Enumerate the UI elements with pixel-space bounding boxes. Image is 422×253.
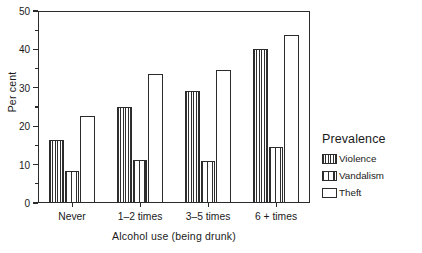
bar-vandalism-0 — [65, 171, 80, 203]
x-tick — [72, 203, 73, 207]
bar-theft-2 — [216, 70, 231, 203]
legend-swatch-theft — [322, 188, 337, 198]
x-category-label: 1–2 times — [118, 211, 163, 222]
x-category-label: 6 + times — [255, 211, 297, 222]
x-category-label: 3–5 times — [186, 211, 231, 222]
legend-label: Vandalism — [339, 170, 384, 181]
legend-swatch-violence — [322, 154, 337, 164]
y-tick-label: 50 — [19, 6, 30, 17]
x-tick — [140, 203, 141, 207]
legend: Prevalence ViolenceVandalismTheft — [322, 132, 422, 204]
bar-vandalism-3 — [269, 147, 284, 203]
y-tick-label: 10 — [19, 159, 30, 170]
legend-swatch-vandalism — [322, 171, 337, 181]
bars-layer — [38, 11, 310, 203]
y-axis: 01020304050 — [0, 0, 38, 253]
legend-title: Prevalence — [322, 132, 422, 146]
legend-item-theft: Theft — [322, 187, 422, 198]
x-tick — [276, 203, 277, 207]
y-tick-label: 20 — [19, 121, 30, 132]
y-tick-label: 0 — [24, 198, 30, 209]
legend-label: Theft — [339, 187, 361, 198]
bar-violence-2 — [185, 91, 200, 204]
bar-vandalism-2 — [201, 161, 216, 203]
bar-violence-0 — [49, 140, 64, 203]
legend-item-vandalism: Vandalism — [322, 170, 422, 181]
bar-chart: Per cent 01020304050 Never1–2 times3–5 t… — [0, 0, 422, 253]
y-tick-label: 30 — [19, 82, 30, 93]
bar-violence-3 — [253, 49, 268, 203]
bar-theft-3 — [284, 35, 299, 203]
legend-item-violence: Violence — [322, 153, 422, 164]
bar-vandalism-1 — [133, 160, 148, 203]
bar-violence-1 — [117, 107, 132, 203]
y-tick-label: 40 — [19, 44, 30, 55]
x-axis-title: Alcohol use (being drunk) — [38, 230, 310, 242]
x-tick — [208, 203, 209, 207]
bar-theft-0 — [80, 116, 95, 203]
legend-label: Violence — [339, 153, 376, 164]
bar-theft-1 — [148, 74, 163, 203]
x-category-label: Never — [58, 211, 85, 222]
